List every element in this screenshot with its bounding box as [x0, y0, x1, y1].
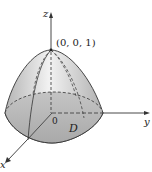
origin-label: 0: [52, 117, 58, 126]
apex-point: [50, 49, 53, 52]
x-axis-label: x: [0, 160, 6, 170]
region-d-label: D: [69, 123, 78, 134]
x-axis: [8, 140, 27, 160]
paraboloid-diagram: [0, 0, 152, 172]
y-axis-arrowhead: [144, 111, 150, 115]
z-axis-label: z: [43, 9, 48, 19]
apex-label: (0, 0, 1): [56, 38, 96, 48]
z-axis-arrowhead: [49, 12, 53, 18]
y-axis-label: y: [144, 117, 150, 127]
